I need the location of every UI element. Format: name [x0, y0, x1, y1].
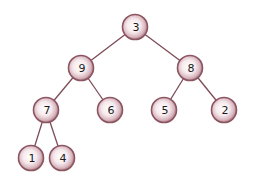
tree-node-4: 4 [50, 146, 75, 171]
tree-node-9: 9 [69, 56, 94, 81]
tree-node-8: 8 [178, 56, 203, 81]
node-label: 6 [108, 104, 115, 117]
node-label: 7 [44, 104, 51, 117]
node-label: 9 [79, 62, 86, 75]
tree-node-3: 3 [123, 15, 148, 40]
tree-node-6: 6 [98, 98, 123, 123]
node-label: 2 [222, 104, 229, 117]
binary-tree-diagram: 398765214 [0, 0, 254, 184]
tree-nodes: 398765214 [19, 15, 237, 171]
node-label: 5 [162, 104, 169, 117]
node-label: 3 [133, 21, 140, 34]
tree-node-2: 2 [212, 98, 237, 123]
node-label: 1 [29, 152, 36, 165]
tree-node-7: 7 [34, 98, 59, 123]
tree-node-1: 1 [19, 146, 44, 171]
tree-node-5: 5 [152, 98, 177, 123]
tree-edges [31, 27, 224, 158]
node-label: 4 [60, 152, 67, 165]
node-label: 8 [188, 62, 195, 75]
